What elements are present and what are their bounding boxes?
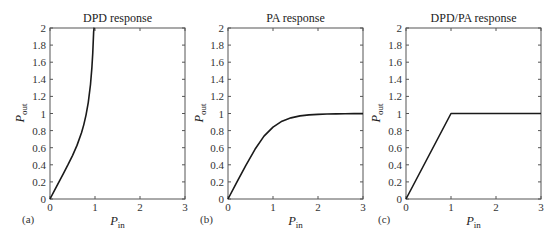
panel-a-dpd-curve xyxy=(50,28,94,199)
panel-a-label: (a) xyxy=(22,213,35,226)
x-tick-label: 2 xyxy=(315,201,321,213)
y-tick-label: 1 xyxy=(397,108,403,120)
chart-canvas: DPD response 012300.20.40.60.811.21.41.6… xyxy=(0,0,560,236)
y-tick-label: 1.6 xyxy=(210,56,224,68)
x-tick-label: 1 xyxy=(92,201,98,213)
x-tick-label: 3 xyxy=(538,201,544,213)
y-tick-label: 0.6 xyxy=(388,142,402,154)
y-tick-label: 1.8 xyxy=(388,39,402,51)
y-tick-label: 1 xyxy=(41,108,47,120)
x-tick-label: 0 xyxy=(225,201,231,213)
panel-b-ticks: 012300.20.40.60.811.21.41.61.82 xyxy=(210,22,366,213)
y-tick-label: 1.6 xyxy=(32,56,46,68)
panel-a-title: DPD response xyxy=(83,11,152,25)
panel-b-pa-curve xyxy=(228,114,363,199)
y-tick-label: 0 xyxy=(219,193,225,205)
panel-c-dpd-pa-curve xyxy=(406,114,541,200)
panel-c-label: (c) xyxy=(378,213,391,226)
y-tick-label: 1.4 xyxy=(32,73,46,85)
y-tick-label: 1 xyxy=(219,108,225,120)
y-tick-label: 0.6 xyxy=(210,142,224,154)
y-tick-label: 0.2 xyxy=(210,176,224,188)
panel-c-xlabel: Pin xyxy=(465,214,481,230)
x-tick-label: 2 xyxy=(493,201,499,213)
y-tick-label: 0.2 xyxy=(32,176,46,188)
y-tick-label: 0 xyxy=(397,193,403,205)
y-tick-label: 0.8 xyxy=(32,125,46,137)
y-tick-label: 2 xyxy=(41,22,47,34)
y-tick-label: 1.2 xyxy=(210,90,224,102)
panel-b-xlabel: Pin xyxy=(287,214,303,230)
y-tick-label: 0 xyxy=(41,193,47,205)
y-tick-label: 1.6 xyxy=(388,56,402,68)
y-tick-label: 1.2 xyxy=(32,90,46,102)
x-tick-label: 2 xyxy=(137,201,143,213)
x-tick-label: 3 xyxy=(182,201,188,213)
x-tick-label: 0 xyxy=(403,201,409,213)
y-tick-label: 0.2 xyxy=(388,176,402,188)
panel-c-title: DPD/PA response xyxy=(431,11,517,25)
panel-a-axes xyxy=(50,28,185,199)
y-tick-label: 1.4 xyxy=(210,73,224,85)
y-tick-label: 0.8 xyxy=(388,125,402,137)
panel-b-label: (b) xyxy=(200,213,213,226)
x-tick-label: 3 xyxy=(360,201,366,213)
y-tick-label: 0.4 xyxy=(388,159,402,171)
y-tick-label: 0.4 xyxy=(210,159,224,171)
panel-a-ticks: 012300.20.40.60.811.21.41.61.82 xyxy=(32,22,188,213)
figure: DPD response 012300.20.40.60.811.21.41.6… xyxy=(0,0,560,236)
y-tick-label: 1.8 xyxy=(32,39,46,51)
y-tick-label: 1.4 xyxy=(388,73,402,85)
y-tick-label: 2 xyxy=(219,22,225,34)
y-tick-label: 2 xyxy=(397,22,403,34)
y-tick-label: 1.8 xyxy=(210,39,224,51)
panel-c-ticks: 012300.20.40.60.811.21.41.61.82 xyxy=(388,22,544,213)
x-tick-label: 0 xyxy=(47,201,53,213)
panel-a-ylabel: Pout xyxy=(13,103,29,124)
panel-a-xlabel: Pin xyxy=(109,214,125,230)
panel-a: DPD response 012300.20.40.60.811.21.41.6… xyxy=(13,11,188,230)
y-tick-label: 0.8 xyxy=(210,125,224,137)
x-tick-label: 1 xyxy=(270,201,276,213)
panel-b-title: PA response xyxy=(266,11,325,25)
y-tick-label: 1.2 xyxy=(388,90,402,102)
y-tick-label: 0.6 xyxy=(32,142,46,154)
x-tick-label: 1 xyxy=(448,201,454,213)
panel-c-ylabel: Pout xyxy=(369,103,385,124)
panel-b: PA response 012300.20.40.60.811.21.41.61… xyxy=(192,11,366,230)
panel-b-ylabel: Pout xyxy=(192,103,208,124)
panel-c: DPD/PA response 012300.20.40.60.811.21.4… xyxy=(369,11,544,230)
y-tick-label: 0.4 xyxy=(32,159,46,171)
